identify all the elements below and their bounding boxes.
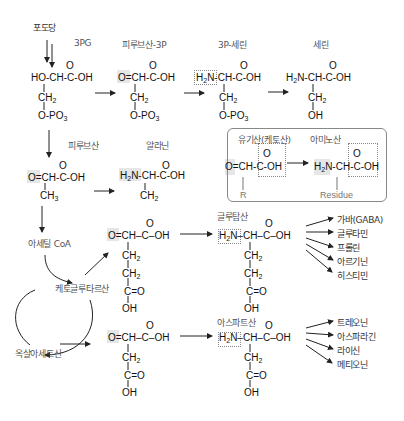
akg-ch2b: CH2 (122, 268, 140, 279)
ser3p-opo3: O-PO3 (219, 110, 248, 121)
oaa-ch2: CH2 (122, 352, 140, 363)
glu-ch2b: CH2 (244, 268, 262, 279)
ser3p-ch2: CH2 (219, 92, 237, 103)
pyr-main: O=CH-C-OH (28, 172, 85, 183)
pyr-ch3: CH3 (40, 190, 58, 201)
product-asparagine: 아스파라긴 (337, 330, 376, 343)
ser3p-top: O (240, 60, 248, 71)
label-pyruvate: 피루브산 (68, 139, 99, 152)
akg-top: O (146, 218, 154, 229)
asp-co: C=O (246, 370, 267, 381)
asp-oh: OH (244, 387, 259, 398)
oaa-co: C=O (124, 370, 145, 381)
asp-ch2: CH2 (244, 352, 262, 363)
legend-amino-top: O (353, 148, 361, 159)
pyr3p-opo3: O-PO3 (130, 110, 159, 121)
product-histamine: 히스티민 (337, 269, 368, 282)
legend-keto-top: O (263, 148, 271, 159)
pg3-opo3: O-PO3 (38, 110, 67, 121)
ala-main: H2N-CH-C-OH (120, 170, 185, 181)
legend-organic-acid-label: 유기산(케토산) (238, 133, 291, 146)
label-oxaloacetate: 옥살아세트산 (15, 347, 61, 360)
asp-main: H2N–CH–C–OH (219, 332, 291, 343)
akg-main: O=CH–C–OH (108, 230, 169, 241)
pg3-top: O (66, 60, 74, 71)
label-alanine: 알라닌 (146, 139, 169, 152)
glu-ch2a: CH2 (244, 250, 262, 261)
oaa-top: O (146, 320, 154, 331)
product-arginine: 아르기닌 (337, 255, 368, 268)
product-lysine: 라이신 (337, 344, 360, 357)
label-glucose: 포도당 (33, 21, 56, 34)
pyr3p-main: O=CH-C-OH (118, 72, 175, 83)
ser3p-main: H2N-CH-C-OH (196, 72, 261, 83)
label-serine: 세린 (313, 38, 328, 51)
product-glutamine: 글루타민 (337, 227, 368, 240)
glu-oh: OH (244, 303, 259, 314)
pyr-top: O (59, 160, 67, 171)
product-proline: 프롤린 (337, 241, 360, 254)
label-aspartate: 아스파트산 (217, 316, 256, 329)
oaa-oh: OH (122, 387, 137, 398)
glu-co: C=O (246, 286, 267, 297)
ser-ch2: CH2 (308, 92, 326, 103)
akg-oh: OH (122, 303, 137, 314)
product-threonine: 트레오닌 (337, 316, 368, 329)
pyr3p-top: O (149, 60, 157, 71)
legend-keto-side: R (240, 190, 247, 201)
legend-amino-side: Residue (320, 190, 353, 201)
ala-ch2: CH2 (140, 190, 158, 201)
ser-oh: OH (308, 110, 323, 121)
product-methionine: 메티오닌 (337, 358, 368, 371)
legend-amino-formula: H2N-CH-C-OH (314, 161, 379, 172)
asp-top: O (265, 320, 273, 331)
pg3-ch2: CH2 (38, 92, 56, 103)
akg-co: C=O (124, 286, 145, 297)
label-ketoglutarate: 케토글루타르산 (55, 282, 109, 295)
akg-ch2a: CH2 (122, 250, 140, 261)
legend-keto-formula: O=CH-C-OH (225, 161, 282, 172)
pyr3p-ch2: CH2 (130, 92, 148, 103)
label-acetyl-coa: 아세틸 CoA (28, 237, 71, 250)
label-3pg: 3PG (74, 38, 91, 48)
ser-main: H2N-CH-C-OH (286, 72, 351, 83)
pg3-main: HO-CH-C-OH (31, 72, 93, 83)
label-glutamate: 글루탐산 (217, 210, 248, 223)
glu-top: O (265, 218, 273, 229)
ser-top: O (329, 60, 337, 71)
oaa-main: O=CH–C–OH (108, 332, 169, 343)
product-gaba: 가바(GABA) (337, 213, 383, 226)
label-3p-serine: 3P-세린 (218, 38, 247, 51)
glu-main: H2N–CH–C–OH (219, 230, 291, 241)
legend-amino-acid-label: 아미노산 (310, 133, 341, 146)
label-pyruvate-3p: 피루브산-3P (122, 38, 166, 51)
